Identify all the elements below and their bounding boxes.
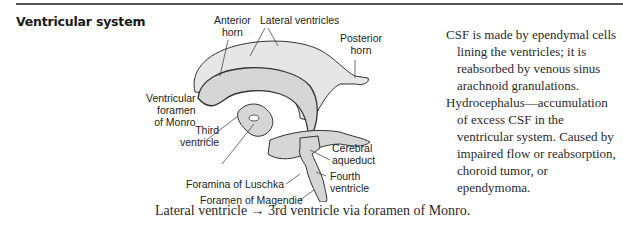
label-foramina-luschka: Foramina of Luschka [186,178,284,190]
label-text: Third ventricle [180,124,219,148]
ventricular-system-diagram: Anterior horn Lateral ventricles Posteri… [150,14,380,202]
note-csf: CSF is made by ependymal cells lining th… [446,26,621,94]
label-text: Posterior horn [340,32,382,56]
note-hydrocephalus: Hydrocephalus—accumulation of excess CSF… [446,94,621,196]
label-text: Fourth ventricle [330,170,369,194]
label-lateral-ventricles: Lateral ventricles [260,14,339,26]
label-text: Anterior horn [214,14,251,38]
label-fourth-ventricle: Fourth ventricle [330,170,369,194]
caption: Lateral ventricle → 3rd ventricle via fo… [155,203,470,219]
label-text: Ventricular foramen of Monro [146,92,196,128]
label-ventricular-foramen: Ventricular foramen of Monro [146,92,196,128]
label-anterior-horn: Anterior horn [214,14,251,38]
top-rule [16,3,623,5]
label-text: Cerebral aqueduct [332,142,375,166]
label-cerebral-aqueduct: Cerebral aqueduct [332,142,375,166]
label-posterior-horn: Posterior horn [340,32,382,56]
label-third-ventricle: Third ventricle [180,124,219,148]
section-title: Ventricular system [16,14,145,29]
notes-list: CSF is made by ependymal cells lining th… [446,26,621,196]
